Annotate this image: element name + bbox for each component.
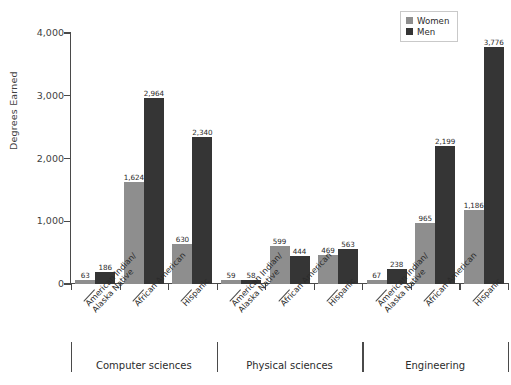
y-tick-label: 2,000 (18, 153, 64, 164)
category-tick (362, 284, 363, 290)
legend-item-men[interactable]: Men (406, 26, 449, 37)
legend-label-men: Men (417, 27, 435, 37)
chart-legend[interactable]: Women Men (400, 11, 458, 42)
y-tick (64, 221, 71, 222)
group-label: Computer sciences (71, 360, 217, 371)
bar-women (221, 280, 241, 284)
y-tick-label: 1,000 (18, 215, 64, 226)
bar-men (144, 98, 164, 284)
bar-women (464, 210, 484, 284)
legend-item-women[interactable]: Women (406, 15, 449, 26)
bar-chart: Degrees Earned 01,0002,0003,0004,000 631… (0, 0, 511, 385)
bar-men (484, 47, 504, 284)
y-tick-label: 0 (18, 278, 64, 289)
bar-value-label: 2,964 (138, 89, 170, 98)
y-tick (64, 95, 71, 96)
bar-men (192, 137, 212, 284)
legend-label-women: Women (417, 16, 449, 26)
category-tick (459, 284, 460, 290)
plot-area: 631861,6242,9646302,34059585994444695636… (71, 33, 508, 284)
bar-value-label: 599 (264, 237, 296, 246)
y-tick (64, 32, 71, 33)
bar-value-label: 563 (332, 240, 364, 249)
group-label: Physical sciences (217, 360, 363, 371)
category-tick (71, 284, 72, 290)
bar-value-label: 2,199 (429, 137, 461, 146)
group-bracket-stem (508, 342, 509, 372)
bar-women (75, 280, 95, 284)
category-tick (168, 284, 169, 290)
group-label: Engineering (362, 360, 508, 371)
bar-men (435, 146, 455, 284)
category-tick (217, 284, 218, 290)
y-tick-label: 4,000 (18, 27, 64, 38)
bar-women (367, 280, 387, 284)
legend-swatch-men-icon (406, 28, 413, 35)
bar-value-label: 3,776 (478, 38, 510, 47)
legend-swatch-women-icon (406, 17, 413, 24)
bar-value-label: 444 (284, 247, 316, 256)
y-tick (64, 158, 71, 159)
category-tick (508, 284, 509, 290)
y-tick-label: 3,000 (18, 90, 64, 101)
bar-value-label: 2,340 (186, 128, 218, 137)
category-tick (314, 284, 315, 290)
